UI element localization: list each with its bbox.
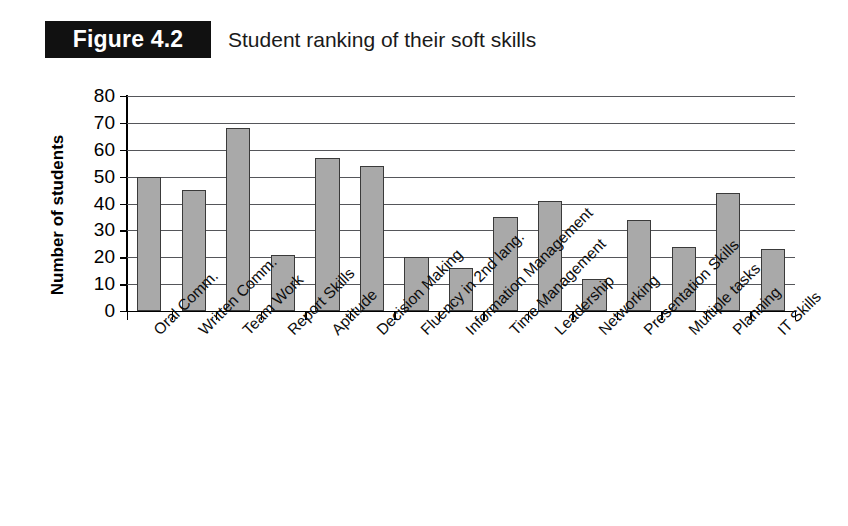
x-axis-labels: Oral Comm.Written Comm.Team WorkReport S…	[0, 70, 848, 526]
x-tick-mark	[127, 311, 128, 320]
bar-chart: Number of students 80706050403020100 Ora…	[0, 70, 848, 526]
figure-header: Figure 4.2 Student ranking of their soft…	[0, 0, 848, 70]
figure-title: Student ranking of their soft skills	[228, 22, 536, 58]
figure-number-badge: Figure 4.2	[45, 21, 211, 58]
